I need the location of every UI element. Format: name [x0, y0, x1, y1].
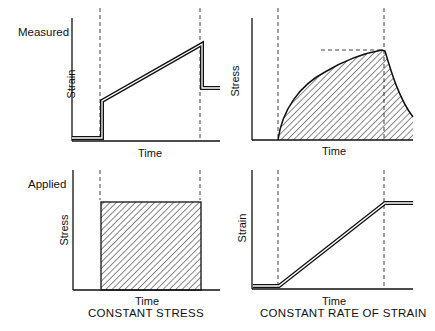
diagram-canvas: [0, 0, 435, 331]
xlabel-bottom-right: Time: [322, 295, 346, 307]
xlabel-bottom-left: Time: [135, 295, 159, 307]
row-label-applied: Applied: [28, 178, 66, 190]
panel-applied-stress: [73, 170, 220, 290]
panel-measured-strain: [72, 8, 220, 141]
caption-constant-stress: CONSTANT STRESS: [88, 307, 204, 319]
ylabel-bottom-right: Strain: [236, 203, 248, 253]
row-label-measured: Measured: [18, 26, 69, 38]
panel-applied-strain: [252, 170, 413, 289]
ylabel-bottom-left: Stress: [58, 205, 70, 255]
panel-measured-stress: [252, 8, 413, 140]
ylabel-top-right: Stress: [229, 56, 241, 106]
caption-constant-rate-of-strain: CONSTANT RATE OF STRAIN: [260, 307, 427, 319]
ylabel-top-left: Strain: [65, 59, 77, 109]
xlabel-top-left: Time: [138, 147, 162, 159]
xlabel-top-right: Time: [322, 145, 346, 157]
